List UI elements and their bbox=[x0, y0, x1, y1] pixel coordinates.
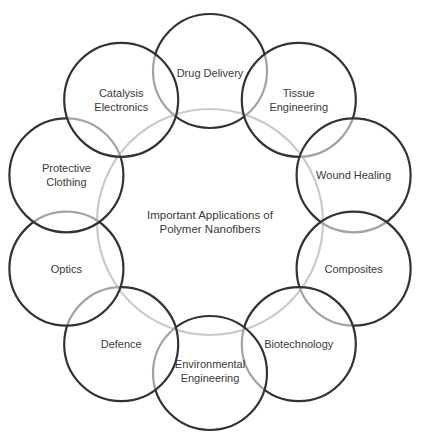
application-label-composites: Composites bbox=[325, 263, 384, 275]
application-label-optics: Optics bbox=[51, 263, 83, 275]
center-title-line: Polymer Nanofibers bbox=[160, 223, 261, 235]
application-label-biotechnology-line: Biotechnology bbox=[264, 338, 334, 350]
application-label-drug-delivery: Drug Delivery bbox=[177, 67, 244, 79]
applications-diagram: Important Applications ofPolymer Nanofib… bbox=[0, 0, 421, 438]
application-label-protective-clothing-line: Clothing bbox=[46, 176, 86, 188]
application-label-optics-line: Optics bbox=[51, 263, 83, 275]
application-label-catalysis-electronics-line: Catalysis bbox=[99, 87, 144, 99]
application-label-protective-clothing-line: Protective bbox=[42, 162, 91, 174]
application-label-composites-line: Composites bbox=[325, 263, 384, 275]
application-label-wound-healing: Wound Healing bbox=[316, 169, 391, 181]
application-label-tissue-engineering-line: Tissue bbox=[283, 87, 315, 99]
application-circle-catalysis-electronics bbox=[64, 43, 178, 157]
application-label-defence: Defence bbox=[101, 338, 142, 350]
application-label-tissue-engineering-line: Engineering bbox=[269, 101, 328, 113]
application-label-drug-delivery-line: Drug Delivery bbox=[177, 67, 244, 79]
application-label-defence-line: Defence bbox=[101, 338, 142, 350]
center-title-line: Important Applications of bbox=[147, 209, 274, 221]
application-label-catalysis-electronics-line: Electronics bbox=[94, 101, 148, 113]
application-label-environmental-engineering-line: Environmental bbox=[175, 358, 245, 370]
application-label-biotechnology: Biotechnology bbox=[264, 338, 334, 350]
application-label-environmental-engineering-line: Engineering bbox=[181, 372, 240, 384]
application-label-wound-healing-line: Wound Healing bbox=[316, 169, 391, 181]
